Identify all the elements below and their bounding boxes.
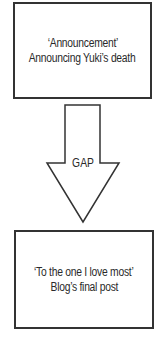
final-post-box: ‘To the one I love most’ Blog’s final po… bbox=[14, 230, 154, 329]
gap-label: GAP bbox=[68, 156, 97, 170]
final-post-title: ‘To the one I love most’ bbox=[34, 265, 133, 280]
final-post-subtitle: Blog’s final post bbox=[50, 280, 118, 295]
